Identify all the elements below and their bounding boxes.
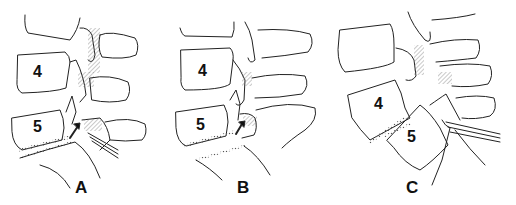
panel-b-drawing bbox=[176, 22, 316, 180]
panel-c-l4-label: 4 bbox=[374, 95, 383, 113]
panel-c-drawing bbox=[338, 12, 500, 185]
panel-c-label: C bbox=[406, 178, 418, 198]
spine-drawing bbox=[0, 0, 516, 205]
panel-b-l4-label: 4 bbox=[198, 62, 207, 80]
panel-c-l5-label: 5 bbox=[407, 128, 416, 146]
panel-a-l5-label: 5 bbox=[33, 118, 42, 136]
panel-a-label: A bbox=[75, 178, 87, 198]
panel-a-l4-label: 4 bbox=[33, 63, 42, 81]
spine-diagram-figure: 4 5 4 5 4 5 A B C bbox=[0, 0, 516, 205]
panel-a-drawing bbox=[12, 15, 146, 188]
panel-b-l5-label: 5 bbox=[196, 116, 205, 134]
panel-b-label: B bbox=[237, 178, 249, 198]
